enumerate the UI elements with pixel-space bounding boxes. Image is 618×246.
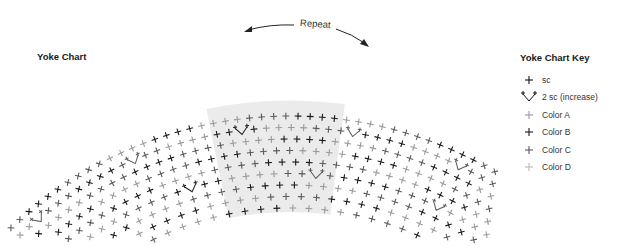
sc-stitch-icon (343, 198, 351, 206)
sc-stitch-icon (55, 228, 62, 235)
sc-stitch-icon (74, 172, 82, 180)
sc-stitch-icon (406, 154, 415, 163)
sc-stitch-icon (84, 166, 92, 174)
sc-stitch-icon (469, 155, 478, 164)
sc-stitch-icon (55, 214, 63, 222)
sc-stitch-icon (381, 147, 389, 155)
sc-stitch-icon (520, 109, 538, 121)
sc-stitch-icon (398, 140, 406, 148)
sc-stitch-icon (491, 168, 499, 176)
sc-stitch-icon (128, 144, 137, 153)
sc-stitch-icon (480, 161, 488, 169)
sc-stitch-icon (418, 208, 427, 217)
sc-stitch-icon (86, 205, 94, 213)
sc-stitch-icon (377, 193, 385, 201)
sc-stitch-icon (155, 158, 164, 167)
sc-stitch-icon (132, 179, 141, 188)
sc-stitch-icon (354, 176, 362, 184)
sc-stitch-icon (143, 162, 152, 171)
sc-stitch-icon (64, 178, 72, 186)
repeat-arrow-right (336, 29, 366, 44)
sc-stitch-icon (436, 141, 445, 150)
sc-stitch-icon (520, 144, 538, 156)
sc-stitch-icon (438, 179, 447, 188)
sc-stitch-icon (520, 126, 538, 138)
increase-stitch-icon (429, 198, 448, 214)
sc-stitch-icon (429, 163, 438, 172)
sc-stitch-icon (188, 136, 196, 144)
sc-stitch-icon (483, 231, 491, 239)
sc-stitch-icon (167, 154, 176, 163)
sc-stitch-icon (201, 133, 209, 141)
sc-stitch-icon (164, 228, 173, 237)
sc-stitch-icon (35, 200, 43, 208)
key-item-label: Color B (542, 127, 570, 137)
sc-stitch-icon (76, 212, 84, 220)
sc-stitch-icon (133, 191, 142, 200)
sc-stitch-icon (35, 230, 42, 237)
sc-stitch-icon (186, 125, 194, 133)
sc-stitch-icon (182, 161, 190, 169)
sc-stitch-icon (160, 193, 169, 202)
sc-stitch-icon (26, 223, 33, 230)
sc-stitch-icon (476, 185, 484, 193)
key-item: sc (520, 71, 598, 89)
sc-stitch-icon (462, 191, 470, 199)
sc-stitch-icon (54, 185, 62, 193)
sc-stitch-icon (401, 213, 410, 222)
sc-stitch-icon (86, 233, 94, 241)
sc-stitch-icon (413, 132, 422, 141)
sc-stitch-icon (149, 222, 158, 231)
sc-stitch-icon (525, 76, 533, 84)
sc-stitch-icon (179, 150, 187, 158)
sc-stitch-icon (144, 174, 153, 183)
sc-stitch-icon (369, 144, 377, 152)
sc-stitch-icon (97, 198, 105, 206)
increase-stitch-icon (451, 157, 470, 173)
sc-stitch-icon (206, 202, 214, 210)
sc-stitch-icon (474, 198, 482, 206)
sc-stitch-icon (189, 195, 197, 203)
increase-stitch-icon (124, 151, 143, 167)
sc-stitch-icon (85, 178, 93, 186)
sc-stitch-icon (139, 139, 148, 148)
sc-stitch-icon (117, 149, 126, 158)
sc-stitch-icon (75, 185, 83, 193)
sc-stitch-icon (460, 203, 468, 211)
sc-stitch-icon (402, 165, 411, 174)
sc-stitch-icon (404, 202, 413, 211)
sc-stitch-icon (520, 161, 538, 173)
sc-stitch-icon (211, 166, 219, 174)
sc-stitch-icon (157, 169, 166, 178)
chart-key: Yoke Chart Key sc 2 sc (increase)Color A… (520, 52, 598, 176)
sc-stitch-icon (45, 222, 52, 229)
sc-stitch-icon (65, 220, 73, 228)
sc-stitch-icon (65, 235, 73, 243)
sc-stitch-icon (200, 180, 208, 188)
sc-stitch-icon (204, 144, 212, 152)
sc-stitch-icon (441, 168, 450, 177)
sc-stitch-icon (464, 179, 473, 188)
sc-stitch-icon (17, 232, 24, 239)
sc-stitch-icon (146, 186, 155, 195)
sc-stitch-icon (457, 228, 465, 236)
sc-stitch-icon (394, 187, 403, 196)
sc-stitch-icon (411, 180, 420, 189)
sc-stitch-icon (122, 210, 130, 218)
sc-stitch-icon (525, 163, 533, 171)
sc-stitch-icon (364, 155, 372, 163)
sc-stitch-icon (421, 196, 430, 205)
key-item: Color D (520, 159, 598, 177)
sc-stitch-icon (98, 211, 106, 219)
sc-stitch-icon (389, 161, 397, 169)
sc-stitch-icon (351, 152, 359, 160)
sc-stitch-icon (158, 181, 167, 190)
sc-stitch-icon (109, 204, 117, 212)
sc-stitch-icon (390, 125, 398, 133)
sc-stitch-icon (86, 192, 94, 200)
sc-stitch-icon (448, 196, 457, 205)
sc-stitch-icon (97, 185, 105, 193)
sc-stitch-icon (141, 151, 150, 160)
sc-stitch-icon (162, 131, 171, 140)
sc-stitch-icon (147, 198, 156, 207)
